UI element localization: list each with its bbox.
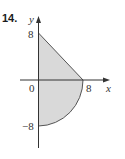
y-tick-bottom-label: −8 [22, 120, 34, 132]
y-axis-label: y [28, 13, 34, 25]
y-tick-top-label: 8 [28, 28, 34, 40]
origin-label: 0 [29, 82, 35, 94]
x-tick-right-label: 8 [86, 82, 92, 94]
x-axis-label: x [105, 82, 111, 94]
y-axis-arrow-icon [36, 16, 41, 23]
region-graph: y x 8 8 0 −8 [0, 0, 125, 159]
